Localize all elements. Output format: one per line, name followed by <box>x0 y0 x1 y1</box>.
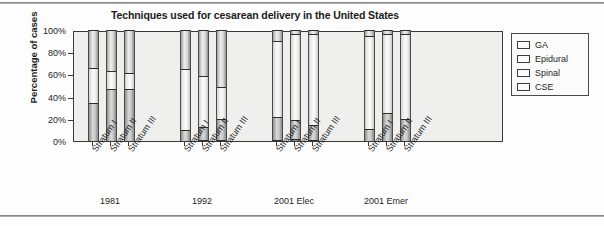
bar-segment-ga <box>199 30 208 76</box>
bar-stack <box>88 30 99 141</box>
legend-label: Epidural <box>535 55 568 64</box>
x-axis-group-label: 2001 Elec <box>274 196 314 206</box>
y-axis-tick-mark <box>68 120 74 121</box>
legend-swatch-spinal <box>517 69 530 77</box>
chart-title: Techniques used for cesarean delivery in… <box>0 9 510 21</box>
bar-stack <box>364 30 375 141</box>
bar-segment-ga <box>125 30 134 73</box>
bar-segment-epidural <box>181 69 190 130</box>
y-axis-tick-label: 20% <box>30 115 66 125</box>
legend-item[interactable]: GA <box>517 38 588 52</box>
bar-segment-epidural <box>125 73 134 89</box>
y-axis-tick-label: 40% <box>30 93 66 103</box>
bar-segment-epidural <box>107 71 116 89</box>
bar-segment-ga <box>107 30 116 71</box>
x-axis-group-label: 2001 Emer <box>364 196 408 206</box>
bar-segment-ga <box>217 30 226 87</box>
legend-swatch-cse <box>517 83 530 91</box>
legend-item[interactable]: Epidural <box>517 52 588 66</box>
bar-segment-epidural <box>291 34 300 119</box>
page-rule-top <box>0 2 604 4</box>
bar-segment-ga <box>89 30 98 68</box>
page-rule-bottom <box>0 215 604 217</box>
y-axis-tick-mark <box>68 75 74 76</box>
y-axis-tick-mark <box>68 53 74 54</box>
legend-label: GA <box>535 41 548 50</box>
bar-segment-epidural <box>383 34 392 113</box>
legend-swatch-ga <box>517 41 530 49</box>
chart-page: Techniques used for cesarean delivery in… <box>0 0 604 226</box>
legend-label: CSE <box>535 83 554 92</box>
legend-swatch-epidural <box>517 55 530 63</box>
y-axis-tick-label: 100% <box>30 26 66 36</box>
bar-segment-epidural <box>401 34 410 118</box>
bar-segment-ga <box>273 30 282 41</box>
legend-item[interactable]: Spinal <box>517 66 588 80</box>
bar-segment-epidural <box>309 34 318 125</box>
bar-segment-spinal <box>273 117 282 140</box>
bar-segment-epidural <box>89 68 98 104</box>
legend-item[interactable]: CSE <box>517 80 588 94</box>
y-axis-tick-label: 60% <box>30 70 66 80</box>
chart-legend: GAEpiduralSpinalCSE <box>511 33 589 96</box>
bar-stack <box>180 30 191 141</box>
bar-segment-epidural <box>365 36 374 129</box>
bar-segment-ga <box>181 30 190 69</box>
y-axis-tick-label: 80% <box>30 48 66 58</box>
x-axis-group-label: 1992 <box>192 196 212 206</box>
bar-stack <box>272 30 283 141</box>
y-axis-tick-mark <box>68 98 74 99</box>
x-axis-group-label: 1981 <box>100 196 120 206</box>
bar-segment-epidural <box>273 41 282 116</box>
plot-area <box>73 31 503 142</box>
y-axis-tick-label: 0% <box>30 137 66 147</box>
bar-segment-spinal <box>89 103 98 141</box>
bar-segment-epidural <box>217 87 226 119</box>
legend-label: Spinal <box>535 69 560 78</box>
